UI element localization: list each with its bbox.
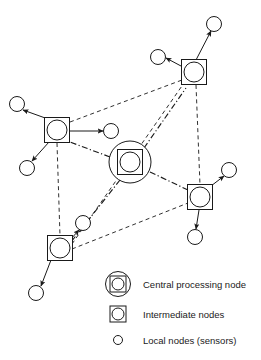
legend: Central processing nodeIntermediate node… <box>106 272 246 347</box>
legend-label: Local nodes (sensors) <box>143 335 236 346</box>
legend-item-local-nodes: Local nodes (sensors) <box>114 335 237 346</box>
perimeter-link <box>196 85 200 185</box>
intermediate-node <box>188 185 213 210</box>
intermediate-node <box>48 236 73 261</box>
local-node <box>10 97 25 112</box>
central-node-layer <box>109 141 151 183</box>
legend-item-central-processing-node: Central processing node <box>106 272 246 297</box>
backbone-link <box>144 88 186 148</box>
perimeter-link <box>70 80 182 122</box>
local-node <box>29 286 44 301</box>
local-node <box>20 161 35 176</box>
intermediate-node-circle <box>184 62 204 82</box>
sensor-link <box>41 260 51 286</box>
local-node <box>151 50 166 65</box>
intermediate-node-circle <box>190 187 210 207</box>
sensor-link <box>196 31 211 60</box>
legend-label: Intermediate nodes <box>143 309 225 320</box>
intermediate-node-circle <box>50 238 70 258</box>
sensor-link <box>196 210 199 229</box>
diagram-canvas: Central processing nodeIntermediate node… <box>0 0 261 360</box>
backbone-link <box>70 142 110 157</box>
intermediate-node <box>182 60 207 85</box>
intermediate-node-circle <box>47 120 67 140</box>
local-node <box>104 124 119 139</box>
central-node-inner-circle <box>120 152 140 172</box>
central-processing-node <box>109 141 151 183</box>
backbone-link <box>150 172 188 190</box>
sensor-link <box>32 142 49 161</box>
local-node <box>207 17 222 32</box>
sensor-link <box>166 58 181 66</box>
network-topology-diagram: Central processing nodeIntermediate node… <box>0 0 261 360</box>
legend-intermediate-circle-icon <box>112 308 124 320</box>
intermediate-node <box>45 118 70 143</box>
legend-label: Central processing node <box>143 279 246 290</box>
legend-central-inner-circle-icon <box>112 278 124 290</box>
perimeter-link <box>57 143 60 236</box>
local-node <box>188 230 203 245</box>
legend-local-circle-icon <box>114 336 123 345</box>
local-node <box>76 216 91 231</box>
local-node <box>222 163 237 178</box>
legend-item-intermediate-nodes: Intermediate nodes <box>110 306 225 322</box>
